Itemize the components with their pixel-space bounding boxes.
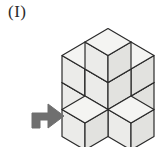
isometric-cube-stack [0,0,165,147]
figure-container: (I) [0,0,165,147]
direction-arrow-icon [32,104,64,128]
cubes-group [62,29,154,148]
